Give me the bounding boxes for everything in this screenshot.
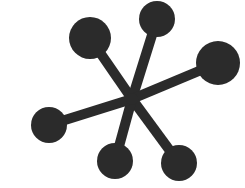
node-bottom-center xyxy=(97,143,133,179)
hub-group xyxy=(126,93,138,105)
node-right xyxy=(196,41,240,85)
diagram-canvas xyxy=(0,0,245,188)
hub-center-node xyxy=(126,93,138,105)
diagram-svg xyxy=(0,0,245,188)
node-left xyxy=(31,107,67,143)
node-top-left xyxy=(69,17,111,59)
node-top-center xyxy=(139,1,175,37)
node-bottom-right xyxy=(161,145,197,181)
